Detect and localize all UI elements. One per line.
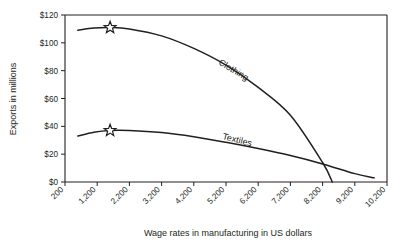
y-tick-label: $40 [44,122,58,131]
y-tick-label: $120 [40,11,59,20]
x-tick-label: 6,200 [238,185,259,206]
series-line-clothing [78,27,332,182]
x-tick-label: 1,200 [77,185,98,206]
x-tick-label: 10,200 [363,185,387,209]
x-tick-label: 4,200 [173,185,194,206]
x-tick-label: 8,200 [302,185,323,206]
y-axis-tick-labels: $0$20$40$60$80$100$120 [40,11,59,187]
series-label-clothing: Clothing [217,57,250,83]
x-axis-title: Wage rates in manufacturing in US dollar… [144,228,313,238]
x-tick-label: 5,200 [206,185,227,206]
exports-vs-wage-line-chart: $0$20$40$60$80$100$120 2001,2002,2003,20… [0,0,409,244]
y-tick-label: $100 [40,39,59,48]
y-axis-ticks [61,15,65,182]
series-label-textiles: Textiles [222,131,254,148]
y-tick-label: $60 [44,95,58,104]
x-tick-label: 2,200 [109,185,130,206]
x-tick-label: 9,200 [334,185,355,206]
star-marker-clothing [104,21,116,32]
star-marker-textiles [104,124,116,135]
chart-container: $0$20$40$60$80$100$120 2001,2002,2003,20… [0,0,409,244]
y-tick-label: $80 [44,67,58,76]
x-tick-label: 200 [49,185,65,201]
y-tick-label: $20 [44,150,58,159]
x-tick-label: 7,200 [270,185,291,206]
y-tick-label: $0 [49,178,59,187]
x-axis-ticks [65,182,387,186]
x-axis-tick-labels: 2001,2002,2003,2004,2005,2006,2007,2008,… [49,185,387,209]
y-axis-title: Exports in millions [8,62,18,135]
x-tick-label: 3,200 [141,185,162,206]
